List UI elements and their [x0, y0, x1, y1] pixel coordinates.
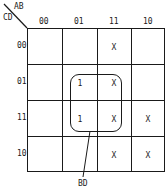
group-label: BD	[78, 180, 88, 188]
group-pointer-line	[0, 0, 166, 192]
